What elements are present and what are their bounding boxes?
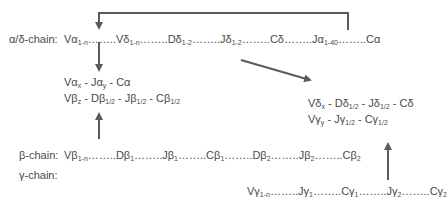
segment-v-alpha: Vα: [64, 33, 78, 45]
beta-locus: Vβ1-n……..Dβ1……..Jβ1……..Cβ1……..Dβ2……..Jβ2…: [64, 150, 361, 161]
gamma-locus: Vγ1-n……..Jγ1……..Cγ1……..Jγ2……..Cγ2: [247, 186, 447, 197]
segment-d-delta: Dδ: [168, 33, 182, 45]
rearranged-delta: Vδx - Dδ1/2 - Jδ1/2 - Cδ: [308, 98, 414, 109]
rearranged-gamma: Vγy - Jγ1/2 - Cγ1/2: [308, 114, 388, 125]
rearranged-alpha: Vαx - Jαy - Cα: [64, 77, 130, 88]
segment-c-alpha: Cα: [366, 33, 380, 45]
alpha-delta-chain-label: α/δ-chain:: [9, 34, 58, 45]
alpha-delta-locus: Vα1-n……..Vδ1-n……..Dδ1-2……..Jδ1-2……..Cδ………: [64, 34, 380, 45]
gamma-chain-label: γ-chain:: [19, 170, 58, 181]
segment-j-alpha: Jα: [312, 33, 324, 45]
rearranged-beta: Vβz - Dβ1/2 - Jβ1/2 - Cβ1/2: [64, 93, 180, 104]
alpha-deletion-bracket-arrow: [99, 13, 348, 30]
beta-chain-label: β-chain:: [19, 150, 58, 161]
segment-j-delta: Jδ: [220, 33, 232, 45]
segment-v-delta: Vδ: [116, 33, 129, 45]
segment-c-delta: Cδ: [270, 33, 284, 45]
arrow-diagonal-to-gamma-delta: [241, 60, 310, 80]
